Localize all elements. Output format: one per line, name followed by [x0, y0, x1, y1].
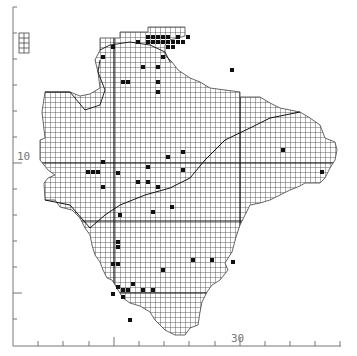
record-dot [181, 168, 185, 172]
record-dot [156, 65, 160, 69]
record-dot [191, 258, 195, 262]
record-dot [131, 282, 135, 286]
record-dot [151, 40, 155, 44]
record-dot [121, 295, 125, 299]
record-dot [116, 285, 120, 289]
record-dot [281, 148, 285, 152]
record-dot [141, 65, 145, 69]
record-dot [166, 40, 170, 44]
record-dot [136, 180, 140, 184]
record-dot [166, 155, 170, 159]
land-grid [0, 0, 357, 356]
record-dot [146, 180, 150, 184]
record-dot [161, 40, 165, 44]
record-dot [101, 185, 105, 189]
record-dot [111, 45, 115, 49]
record-dot [166, 45, 170, 49]
record-dot [116, 240, 120, 244]
island-grid [19, 33, 29, 53]
record-dot [96, 170, 100, 174]
record-dot [176, 35, 180, 39]
record-dot [86, 170, 90, 174]
record-dot [121, 80, 125, 84]
record-dot [91, 170, 95, 174]
record-dot [231, 260, 235, 264]
record-dot [126, 288, 130, 292]
record-dot [161, 55, 165, 59]
record-dot [161, 268, 165, 272]
record-dot [116, 262, 120, 266]
record-dot [176, 40, 180, 44]
distribution-map [0, 0, 357, 356]
record-dot [161, 35, 165, 39]
bottom-axis-label: 30 [231, 333, 244, 344]
record-dot [126, 80, 130, 84]
record-dot [156, 90, 160, 94]
record-dot [101, 55, 105, 59]
record-dot [136, 40, 140, 44]
record-dot [151, 35, 155, 39]
record-dot [118, 213, 122, 217]
record-dot [101, 160, 105, 164]
record-dot [166, 35, 170, 39]
record-dot [146, 35, 150, 39]
record-dot [156, 35, 160, 39]
record-dot [171, 45, 175, 49]
record-dot [156, 80, 160, 84]
record-dot [181, 40, 185, 44]
record-dot [111, 262, 115, 266]
record-dot [320, 170, 324, 174]
left-axis-label: 10 [17, 151, 30, 162]
record-dot [146, 40, 150, 44]
record-dot [151, 210, 155, 214]
record-dot [146, 165, 150, 169]
record-dot [186, 35, 190, 39]
record-dot [156, 185, 160, 189]
record-dot [170, 205, 174, 209]
record-dot [141, 288, 145, 292]
record-dot [116, 245, 120, 249]
record-dot [156, 40, 160, 44]
record-dot [230, 68, 234, 72]
record-dot [171, 40, 175, 44]
record-dot [128, 318, 132, 322]
record-dot [121, 288, 125, 292]
record-dot [210, 258, 214, 262]
record-dot [151, 288, 155, 292]
record-dot [181, 150, 185, 154]
record-dot [111, 292, 115, 296]
record-dot [116, 171, 120, 175]
